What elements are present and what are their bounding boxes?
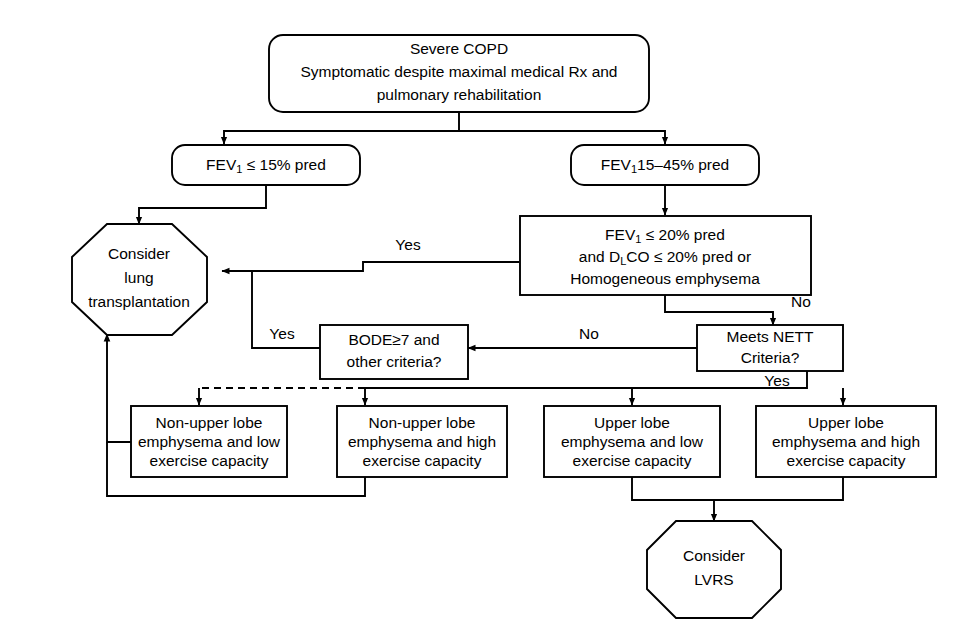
fev1-dlco-l1-prefix: FEV	[605, 226, 636, 243]
node-fev1-15[interactable]: FEV1 ≤ 15% pred	[172, 145, 360, 185]
nonupper-high-line2: emphysema and high	[348, 433, 496, 450]
upper-high-line2: emphysema and high	[772, 433, 920, 450]
edge-copd-split	[224, 112, 459, 144]
fev1-15-prefix: FEV	[206, 156, 237, 173]
flowchart-canvas: Yes Yes No No Yes Severe COPD Symptomati…	[0, 0, 955, 624]
flowchart-svg: Yes Yes No No Yes Severe COPD Symptomati…	[0, 0, 955, 624]
edge-label-yes-nett-subtypes: Yes	[764, 372, 790, 389]
node-fev1-15-45[interactable]: FEV115–45% pred	[571, 145, 759, 185]
node-fev1-dlco[interactable]: FEV1 ≤ 20% pred and DLCO ≤ 20% pred or H…	[520, 216, 811, 295]
node-upper-low[interactable]: Upper lobe emphysema and low exercise ca…	[544, 406, 720, 477]
fev1-dlco-l2-prefix: and D	[579, 248, 620, 265]
edge-dlco-yes-to-transplant	[222, 262, 519, 271]
fev1-15-45-suffix: 15–45% pred	[637, 156, 729, 173]
nonupper-high-line3: exercise capacity	[363, 452, 482, 469]
node-nonupper-high[interactable]: Non-upper lobe emphysema and high exerci…	[337, 406, 507, 477]
consider-transplant-line3: transplantation	[88, 293, 190, 310]
severe-copd-line3: pulmonary rehabilitation	[377, 86, 542, 103]
edge-upper-high-merge	[714, 477, 843, 500]
node-nonupper-low[interactable]: Non-upper lobe emphysema and low exercis…	[131, 406, 287, 477]
upper-high-line1: Upper lobe	[808, 414, 884, 431]
nett-line2: Criteria?	[741, 349, 800, 366]
upper-high-line3: exercise capacity	[787, 452, 906, 469]
fev1-15-suffix: ≤ 15% pred	[242, 156, 325, 173]
node-severe-copd[interactable]: Severe COPD Symptomatic despite maximal …	[269, 35, 649, 112]
consider-transplant-line2: lung	[124, 269, 153, 286]
nonupper-high-line1: Non-upper lobe	[369, 414, 476, 431]
consider-lvrs-line2: LVRS	[694, 571, 733, 588]
node-bode[interactable]: BODE≥7 and other criteria?	[320, 325, 468, 379]
node-upper-high[interactable]: Upper lobe emphysema and high exercise c…	[756, 406, 936, 477]
nonupper-low-line2: emphysema and low	[138, 433, 281, 450]
consider-lvrs-octagon	[647, 521, 781, 618]
edge-fev1-15-to-transplant	[139, 185, 266, 224]
severe-copd-line1: Severe COPD	[410, 40, 508, 57]
edge-upper-low-merge	[632, 477, 714, 500]
edge-label-yes-dlco-transplant: Yes	[395, 236, 421, 253]
fev1-15-45-prefix: FEV	[601, 156, 632, 173]
bode-line2: other criteria?	[347, 353, 442, 370]
fev1-dlco-line3: Homogeneous emphysema	[570, 270, 760, 287]
edge-copd-to-fev1-15-45	[459, 131, 665, 144]
edge-dlco-no-to-nett	[665, 295, 773, 325]
consider-transplant-line1: Consider	[108, 245, 170, 262]
fev1-dlco-line2: and DLCO ≤ 20% pred or	[579, 248, 751, 267]
nonupper-low-line3: exercise capacity	[150, 452, 269, 469]
upper-low-line3: exercise capacity	[573, 452, 692, 469]
node-nett[interactable]: Meets NETT Criteria?	[697, 325, 843, 371]
edge-label-no-nett-bode: No	[579, 325, 599, 342]
consider-lvrs-line1: Consider	[683, 547, 745, 564]
node-consider-transplant[interactable]: Consider lung transplantation	[72, 224, 207, 335]
fev1-dlco-l2-suffix: CO ≤ 20% pred or	[626, 248, 751, 265]
fev1-dlco-line1: FEV1 ≤ 20% pred	[605, 226, 725, 245]
fev1-15-45-label: FEV115–45% pred	[601, 156, 730, 175]
fev1-15-label: FEV1 ≤ 15% pred	[206, 156, 326, 175]
node-consider-lvrs[interactable]: Consider LVRS	[647, 521, 781, 618]
upper-low-line2: emphysema and low	[561, 433, 704, 450]
upper-low-line1: Upper lobe	[594, 414, 670, 431]
bode-line1: BODE≥7 and	[348, 331, 439, 348]
nett-line1: Meets NETT	[727, 328, 815, 345]
edge-nonupper-low-to-transplant	[107, 334, 131, 442]
edge-label-yes-bode-transplant: Yes	[269, 325, 295, 342]
severe-copd-line2: Symptomatic despite maximal medical Rx a…	[300, 63, 617, 80]
nonupper-low-line1: Non-upper lobe	[156, 414, 263, 431]
fev1-dlco-l1-suffix: ≤ 20% pred	[641, 226, 724, 243]
